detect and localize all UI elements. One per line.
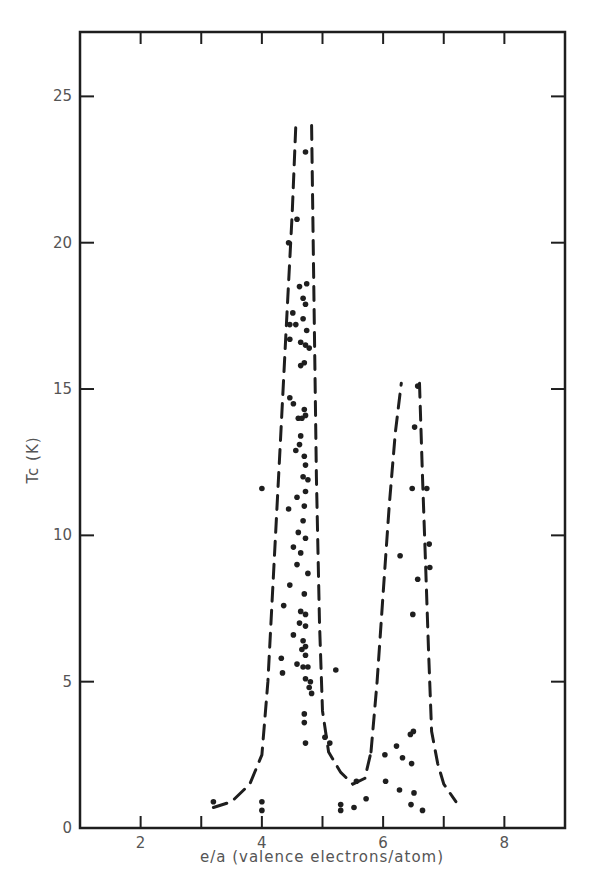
data-point bbox=[287, 337, 293, 343]
data-point bbox=[411, 729, 417, 735]
data-point bbox=[297, 620, 303, 626]
data-point bbox=[298, 433, 304, 439]
data-point bbox=[394, 743, 400, 749]
data-point bbox=[259, 799, 265, 805]
data-point bbox=[298, 609, 304, 615]
data-point bbox=[280, 670, 286, 676]
envelope-curve bbox=[213, 126, 295, 808]
data-point bbox=[309, 691, 315, 697]
data-point bbox=[291, 632, 297, 638]
data-point bbox=[298, 339, 304, 345]
data-point bbox=[281, 603, 287, 609]
data-point bbox=[304, 281, 310, 287]
data-point bbox=[294, 217, 300, 223]
data-point bbox=[303, 653, 309, 659]
data-point bbox=[383, 778, 389, 784]
data-point bbox=[303, 536, 309, 542]
data-point bbox=[411, 790, 417, 796]
data-point bbox=[302, 711, 308, 717]
data-point bbox=[303, 149, 309, 155]
data-point bbox=[297, 284, 303, 290]
data-point bbox=[303, 740, 309, 746]
data-point bbox=[351, 805, 357, 811]
data-point bbox=[327, 740, 333, 746]
chart: 24680510152025 e/a (valence electrons/at… bbox=[0, 0, 595, 884]
data-point bbox=[397, 787, 403, 793]
data-point bbox=[287, 322, 293, 328]
data-point bbox=[400, 755, 406, 761]
data-point bbox=[382, 752, 388, 758]
data-point bbox=[302, 591, 308, 597]
x-tick-label: 2 bbox=[136, 834, 146, 852]
data-point bbox=[300, 296, 306, 302]
data-point bbox=[302, 407, 308, 413]
data-point bbox=[354, 778, 360, 784]
data-point bbox=[300, 638, 306, 644]
y-tick-label: 5 bbox=[62, 673, 72, 691]
data-point bbox=[300, 518, 306, 524]
data-point bbox=[300, 474, 306, 480]
data-point bbox=[308, 679, 314, 685]
data-point bbox=[303, 462, 309, 468]
x-tick-label: 8 bbox=[500, 834, 510, 852]
y-axis-label: Tc (K) bbox=[24, 436, 42, 484]
dashed-envelopes bbox=[213, 126, 456, 808]
data-point bbox=[397, 553, 403, 559]
data-point bbox=[259, 486, 265, 492]
data-point bbox=[426, 541, 432, 547]
data-point bbox=[410, 612, 416, 618]
y-tick-label: 10 bbox=[53, 526, 72, 544]
data-point bbox=[322, 735, 328, 741]
data-point bbox=[211, 799, 217, 805]
y-tick-label: 20 bbox=[53, 234, 72, 252]
y-tick-label: 15 bbox=[53, 380, 72, 398]
data-point bbox=[300, 664, 306, 670]
data-point bbox=[415, 577, 421, 583]
data-point bbox=[302, 454, 308, 460]
data-point bbox=[259, 808, 265, 814]
data-point bbox=[298, 550, 304, 556]
envelope-curve bbox=[312, 126, 371, 785]
data-point bbox=[297, 442, 303, 448]
data-point bbox=[287, 395, 293, 401]
data-point bbox=[303, 301, 309, 307]
x-axis-label: e/a (valence electrons/atom) bbox=[200, 848, 444, 866]
data-point bbox=[305, 477, 311, 483]
data-point bbox=[293, 448, 299, 454]
data-point bbox=[305, 571, 311, 577]
data-point bbox=[363, 796, 369, 802]
data-point bbox=[279, 656, 285, 662]
data-point bbox=[291, 544, 297, 550]
data-point bbox=[427, 565, 433, 571]
data-point bbox=[303, 623, 309, 629]
data-point bbox=[296, 530, 302, 536]
data-point bbox=[412, 424, 418, 430]
data-point bbox=[420, 808, 426, 814]
data-point bbox=[294, 661, 300, 667]
y-tick-label: 0 bbox=[62, 819, 72, 837]
data-point bbox=[305, 664, 311, 670]
data-point bbox=[303, 413, 309, 419]
data-point bbox=[286, 240, 292, 246]
data-point bbox=[294, 495, 300, 501]
data-point bbox=[338, 802, 344, 808]
data-point bbox=[298, 363, 304, 369]
data-point bbox=[291, 401, 297, 407]
data-point bbox=[408, 802, 414, 808]
data-point bbox=[303, 644, 309, 650]
data-point bbox=[415, 383, 421, 389]
data-point bbox=[306, 685, 312, 691]
data-point bbox=[287, 582, 293, 588]
data-point bbox=[306, 345, 312, 351]
data-point bbox=[303, 612, 309, 618]
data-point bbox=[409, 486, 415, 492]
data-point bbox=[409, 761, 415, 767]
data-point bbox=[286, 506, 292, 512]
data-point bbox=[302, 503, 308, 509]
data-point bbox=[303, 676, 309, 682]
data-point bbox=[302, 720, 308, 726]
data-point bbox=[300, 316, 306, 322]
data-point bbox=[293, 322, 299, 328]
data-point bbox=[424, 486, 430, 492]
data-point bbox=[303, 489, 309, 495]
